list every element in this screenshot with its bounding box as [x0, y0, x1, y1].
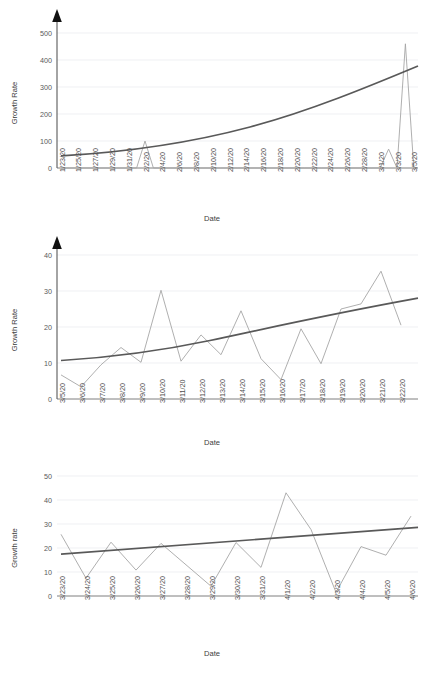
chart-2-xtick: 3/11/20 — [178, 380, 187, 403]
chart-3-ytick: 10 — [44, 568, 52, 577]
chart-1-xtick: 2/26/20 — [343, 148, 352, 172]
chart-2-xtick: 3/5/20 — [58, 383, 67, 403]
chart-3-gridlines — [57, 476, 418, 572]
chart-2-ytick: 10 — [44, 359, 52, 368]
chart-1-ytick: 400 — [40, 56, 52, 65]
chart-3-x-tick-labels: 3/23/20 3/24/20 3/25/20 3/26/20 3/27/20 … — [58, 576, 417, 600]
chart-2-ytick: 20 — [44, 323, 52, 332]
chart-1-svg: 0 100 200 300 400 500 1/23/20 1/25/20 1/… — [0, 0, 429, 230]
chart-1-xtick: 1/25/20 — [74, 148, 83, 172]
chart-1-xtick: 2/6/20 — [175, 152, 184, 172]
chart-1-xtick: 3/1/20 — [377, 152, 386, 172]
chart-3-ytick: 20 — [44, 544, 52, 553]
chart-2-ytick: 30 — [44, 287, 52, 296]
chart-1-x-axis-title: Date — [204, 214, 220, 223]
chart-2-xtick: 3/20/20 — [358, 379, 367, 403]
chart-1-xtick: 2/4/20 — [158, 152, 167, 172]
chart-1-xtick: 2/8/20 — [192, 152, 201, 172]
chart-1-ytick: 0 — [48, 164, 52, 173]
chart-1-ytick: 200 — [40, 110, 52, 119]
chart-2-xtick: 3/14/20 — [238, 379, 247, 403]
chart-2-svg: 0 10 20 30 40 3/5/20 3/6/20 3/7/20 3/8/2… — [0, 230, 429, 455]
chart-2-xtick: 3/7/20 — [98, 383, 107, 403]
chart-2-ytick: 40 — [44, 251, 52, 260]
chart-3-xtick: 4/6/20 — [408, 580, 417, 600]
chart-3-xtick: 3/24/20 — [83, 576, 92, 600]
chart-1-xtick: 1/27/20 — [91, 148, 100, 172]
chart-2-xtick: 3/18/20 — [318, 379, 327, 403]
chart-3-y-axis-title: Growth rate — [10, 528, 19, 568]
figure-page: 0 100 200 300 400 500 1/23/20 1/25/20 1/… — [0, 0, 429, 674]
chart-3-container: 0 10 20 30 40 50 3/23/20 3/24/20 3/25/20… — [0, 455, 429, 674]
chart-1-xtick: 1/23/20 — [58, 148, 67, 172]
chart-2-data-series — [61, 271, 401, 387]
chart-2-y-axis-title: Growth Rate — [10, 309, 19, 352]
chart-3-xtick: 3/30/20 — [233, 576, 242, 600]
chart-3-xtick: 4/2/20 — [308, 580, 317, 600]
chart-1-ytick: 300 — [40, 83, 52, 92]
chart-3-trendline — [61, 527, 418, 554]
chart-2-xtick: 3/15/20 — [258, 379, 267, 403]
chart-1-xtick: 2/24/20 — [326, 148, 335, 172]
chart-1-xtick: 1/29/20 — [108, 148, 117, 172]
chart-3-xtick: 3/26/20 — [133, 576, 142, 600]
chart-1-y-axis-title: Growth Rate — [10, 82, 19, 125]
chart-2-xtick: 3/9/20 — [138, 383, 147, 403]
chart-3-ytick: 0 — [48, 592, 52, 601]
chart-1-xtick: 2/20/20 — [293, 148, 302, 172]
chart-1-xtick: 3/5/20 — [410, 152, 419, 172]
chart-2-xtick: 3/8/20 — [118, 383, 127, 403]
chart-1-xtick: 1/31/20 — [125, 148, 134, 172]
chart-1-gridlines — [57, 33, 418, 141]
chart-2-ytick: 0 — [48, 395, 52, 404]
chart-2-trendline — [61, 298, 418, 360]
chart-1-ytick: 100 — [40, 137, 52, 146]
chart-3-xtick: 3/23/20 — [58, 576, 67, 600]
chart-1-xtick: 2/10/20 — [209, 148, 218, 172]
chart-2-xtick: 3/10/20 — [158, 379, 167, 403]
chart-2-xtick: 3/17/20 — [298, 379, 307, 403]
chart-1-y-tick-labels: 0 100 200 300 400 500 — [40, 29, 52, 173]
chart-3-x-axis-title: Date — [204, 649, 220, 658]
chart-3-xtick: 4/3/20 — [333, 580, 342, 600]
chart-2-y-tick-labels: 0 10 20 30 40 — [44, 251, 52, 404]
chart-3-xtick: 3/29/20 — [208, 576, 217, 600]
chart-2-y-axis-arrow-icon — [52, 236, 62, 249]
chart-2-xtick: 3/19/20 — [338, 379, 347, 403]
chart-1-y-axis-arrow-icon — [52, 9, 62, 22]
chart-3-xtick: 4/1/20 — [283, 580, 292, 600]
chart-3-xtick: 4/5/20 — [383, 580, 392, 600]
chart-1-xtick: 2/2/20 — [142, 152, 151, 172]
chart-3-xtick: 3/28/20 — [183, 576, 192, 600]
chart-3-xtick: 3/25/20 — [108, 576, 117, 600]
chart-2-xtick: 3/22/20 — [398, 379, 407, 403]
chart-3-ytick: 40 — [44, 496, 52, 505]
chart-1-xtick: 3/3/20 — [394, 152, 403, 172]
chart-3-xtick: 3/27/20 — [158, 576, 167, 600]
chart-1-ytick: 500 — [40, 29, 52, 38]
chart-1-xtick: 2/18/20 — [276, 148, 285, 172]
chart-2-xtick: 3/6/20 — [78, 383, 87, 403]
chart-3-ytick: 30 — [44, 520, 52, 529]
chart-3-y-tick-labels: 0 10 20 30 40 50 — [44, 472, 52, 601]
chart-2-xtick: 3/12/20 — [198, 379, 207, 403]
chart-1-xtick: 2/12/20 — [226, 148, 235, 172]
chart-3-xtick: 3/31/20 — [258, 576, 267, 600]
chart-1-container: 0 100 200 300 400 500 1/23/20 1/25/20 1/… — [0, 0, 429, 230]
chart-1-trendline — [61, 66, 418, 156]
chart-1-xtick: 2/16/20 — [259, 148, 268, 172]
chart-3-svg: 0 10 20 30 40 50 3/23/20 3/24/20 3/25/20… — [0, 455, 429, 674]
chart-3-ytick: 50 — [44, 472, 52, 481]
chart-2-xtick: 3/13/20 — [218, 379, 227, 403]
chart-2-xtick: 3/16/20 — [278, 379, 287, 403]
chart-2-container: 0 10 20 30 40 3/5/20 3/6/20 3/7/20 3/8/2… — [0, 230, 429, 455]
chart-1-xtick: 2/28/20 — [360, 148, 369, 172]
chart-2-xtick: 3/21/20 — [378, 379, 387, 403]
chart-3-xtick: 4/4/20 — [358, 580, 367, 600]
chart-2-x-axis-title: Date — [204, 438, 220, 447]
chart-1-xtick: 2/14/20 — [242, 148, 251, 172]
chart-1-xtick: 2/22/20 — [310, 148, 319, 172]
